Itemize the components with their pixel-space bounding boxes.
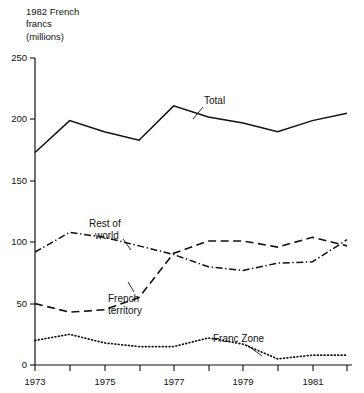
y-axis: 250 200 150 100 50 0 [11,52,35,370]
y-tick-label-50: 50 [16,298,27,309]
x-axis: 1973 1975 1977 1979 1981 [24,365,352,387]
y-tick-label-200: 200 [11,113,27,124]
series-line-rest-of-world [35,232,347,270]
x-tick-label-1977: 1977 [163,376,184,387]
series-line-total [35,106,347,153]
chart-container: 1982 French francs (millions) 250 200 15… [0,0,364,393]
series-line-franc-zone [35,334,347,359]
x-tick-label-1973: 1973 [24,376,45,387]
series-label-total: Total [204,95,225,106]
y-tick-label-0: 0 [22,359,27,370]
series-label-french-2: territory [108,305,142,316]
x-tick-label-1979: 1979 [232,376,253,387]
y-tick-label-100: 100 [11,236,27,247]
x-tick-label-1975: 1975 [94,376,115,387]
series-label-franc-zone: Franc Zone [213,333,265,344]
y-tick-label-150: 150 [11,175,27,186]
series-line-french-territory [35,237,347,312]
y-tick-label-250: 250 [11,52,27,63]
series-label-rest-of-2: world [94,230,119,241]
x-tick-label-1981: 1981 [302,376,323,387]
series-label-french-1: French [108,293,139,304]
leader-rest-of-world [123,239,131,250]
chart-svg: 250 200 150 100 50 0 1973 1975 1977 1979… [0,0,364,393]
series-label-rest-of-1: Rest of [89,218,121,229]
leader-franc-zone [247,345,262,356]
series-lines [35,106,347,359]
leader-french-territory [128,282,134,292]
